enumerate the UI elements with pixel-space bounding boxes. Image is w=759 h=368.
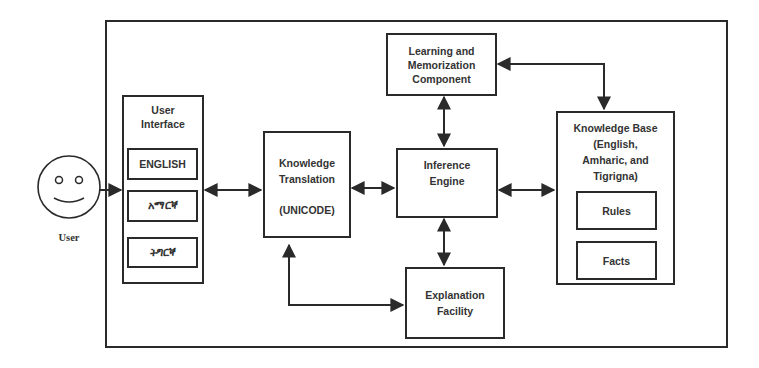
- learning-line2: Memorization: [408, 58, 476, 72]
- kb-facts-label: Facts: [603, 254, 630, 268]
- language-english: ENGLISH: [127, 148, 198, 180]
- explanation-facility-box: Explanation Facility: [405, 267, 505, 339]
- explanation-line1: Explanation: [425, 288, 485, 302]
- language-tigrigna: ትግርኛ: [127, 237, 198, 268]
- learning-memorization-box: Learning and Memorization Component: [386, 33, 497, 96]
- inference-line2: Engine: [398, 174, 496, 188]
- user-interface-title-line1: User: [124, 103, 202, 117]
- knowledge-translation-line2: Translation: [265, 172, 349, 186]
- language-amharic-label: አማርኛ: [148, 199, 178, 213]
- language-tigrigna-label: ትግርኛ: [150, 246, 176, 260]
- language-english-label: ENGLISH: [139, 157, 186, 171]
- knowledge-base-line2: (English,: [558, 137, 673, 151]
- explanation-line2: Facility: [437, 304, 473, 318]
- knowledge-translation-line1: Knowledge: [265, 156, 349, 170]
- kb-rules-label: Rules: [602, 204, 631, 218]
- inference-line1: Inference: [398, 158, 496, 172]
- user-interface-box: User Interface ENGLISH አማርኛ ትግርኛ: [122, 95, 204, 284]
- knowledge-translation-line3: (UNICODE): [265, 203, 349, 217]
- kb-rules-box: Rules: [576, 191, 657, 230]
- knowledge-base-line1: Knowledge Base: [558, 121, 673, 135]
- learning-line1: Learning and: [409, 44, 475, 58]
- inference-engine-box: Inference Engine: [396, 148, 498, 218]
- knowledge-base-line4: Tigrigna): [558, 169, 673, 183]
- knowledge-translation-box: Knowledge Translation (UNICODE): [263, 131, 351, 238]
- knowledge-base-box: Knowledge Base (English, Amharic, and Ti…: [556, 111, 675, 285]
- user-label: User: [40, 231, 98, 245]
- smiley-face-icon: [36, 154, 102, 220]
- kb-facts-box: Facts: [576, 241, 657, 280]
- learning-line3: Component: [412, 72, 470, 86]
- language-amharic: አማርኛ: [127, 190, 198, 222]
- knowledge-base-line3: Amharic, and: [558, 153, 673, 167]
- user-interface-title-line2: Interface: [124, 117, 202, 131]
